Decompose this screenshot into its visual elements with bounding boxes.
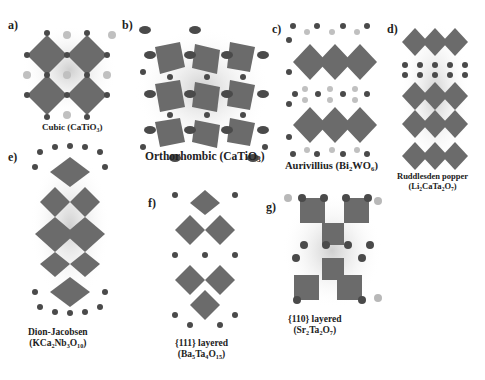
caption-aurivillius: Aurivillius (Bi2WO6) <box>285 160 378 173</box>
110-layered-structure-diagram <box>282 193 382 308</box>
cubic-structure-diagram <box>22 20 142 130</box>
caption-111-layered: {111} layered (Ba5Ta4O15) <box>175 338 228 361</box>
caption-110-layered: {110} layered (Sr2Ta2O7) <box>288 314 342 337</box>
caption-orthorhombic: Orthorhombic (CaTiO3) <box>145 150 265 165</box>
panel-label-c: c) <box>272 22 281 37</box>
caption-cubic: Cubic (CaTiO3) <box>42 122 103 134</box>
aurivillius-structure-diagram <box>285 22 385 157</box>
panel-label-g: g) <box>266 200 276 215</box>
caption-dion-jacobsen: Dion-Jacobsen (KCa2Nb3O10) <box>28 327 88 350</box>
panel-label-a: a) <box>8 18 18 33</box>
dion-jacobsen-structure-diagram <box>30 142 110 312</box>
panel-label-d: d) <box>387 22 398 37</box>
111-layered-structure-diagram <box>170 185 240 330</box>
caption-ruddlesden-popper: Ruddlesden popper (Li2CaTa2O7) <box>397 172 468 192</box>
panel-label-f: f) <box>148 196 156 211</box>
panel-label-e: e) <box>8 150 17 165</box>
orthorhombic-structure-diagram <box>135 22 275 162</box>
ruddlesden-popper-structure-diagram <box>400 20 470 170</box>
panel-label-b: b) <box>122 18 133 33</box>
